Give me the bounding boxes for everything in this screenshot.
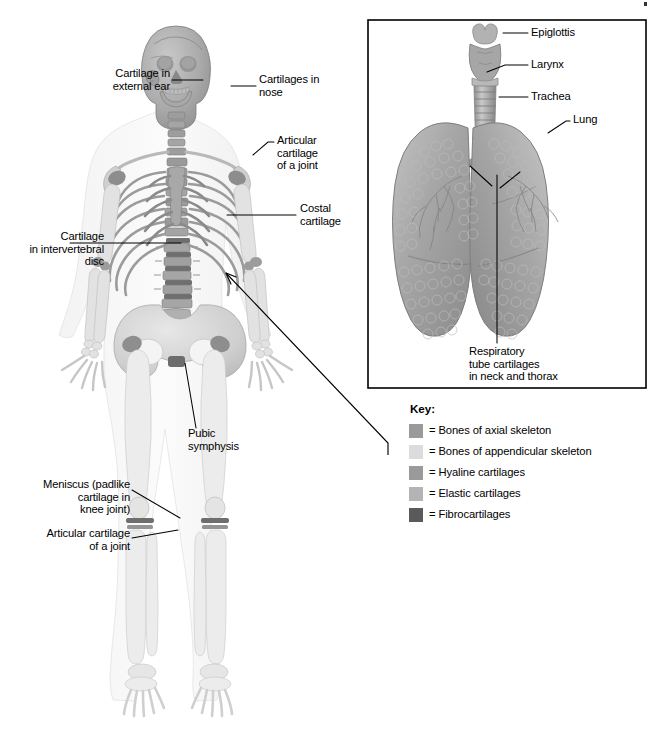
toes-right [192, 688, 232, 716]
phalanges-right [249, 356, 292, 390]
key-item-hyaline-cartilages: = Hyaline cartilages [409, 465, 644, 480]
tarsals [125, 664, 231, 691]
key-legend: Key: = Bones of axial skeleton = Bones o… [409, 402, 644, 528]
key-swatch-axial-skeleton [409, 424, 423, 438]
key-title: Key: [410, 402, 644, 415]
key-swatch-hyaline-cartilages [409, 466, 423, 480]
meniscus-right [201, 518, 229, 523]
lung-left [393, 123, 472, 336]
phalanges-left [62, 356, 105, 390]
lung-right [470, 123, 549, 336]
skeleton-figure [59, 26, 292, 716]
knee-articular-cartilage-right [202, 525, 228, 529]
fibula-left [146, 532, 158, 656]
key-swatch-elastic-cartilages [409, 487, 423, 501]
label-meniscus-knee: Meniscus (padlike cartilage in knee join… [24, 478, 130, 516]
label-cartilages-nose: Cartilages in nose [259, 73, 351, 98]
key-item-axial-skeleton: = Bones of axial skeleton [409, 423, 644, 438]
label-epiglottis: Epiglottis [531, 26, 575, 39]
key-label-fibrocartilages: = Fibrocartilages [429, 508, 510, 521]
top-mark [644, 2, 647, 6]
label-pubic-symphysis: Pubic symphysis [188, 427, 262, 452]
toes-left [124, 688, 164, 716]
inset-panel [368, 20, 646, 388]
label-cartilage-external-ear: Cartilage in external ear [80, 67, 170, 92]
key-label-elastic-cartilages: = Elastic cartilages [429, 487, 521, 500]
key-swatch-appendicular-skeleton [409, 445, 423, 459]
tibia-right [206, 530, 226, 664]
key-label-axial-skeleton: = Bones of axial skeleton [429, 424, 551, 437]
knee-articular-cartilage-left [127, 525, 153, 529]
key-item-fibrocartilages: = Fibrocartilages [409, 507, 644, 522]
fibula-right [194, 532, 206, 656]
leader-articular-cartilage-shoulder [253, 142, 274, 155]
label-lung: Lung [573, 113, 597, 126]
label-costal-cartilage: Costal cartilage [300, 202, 366, 227]
key-swatch-fibrocartilages [409, 508, 423, 522]
label-articular-cartilage-shoulder: Articular cartilage of a joint [277, 134, 355, 172]
patella-right [205, 497, 225, 519]
key-item-elastic-cartilages: = Elastic cartilages [409, 486, 644, 501]
label-trachea: Trachea [531, 90, 571, 103]
cervical-vertebrae [167, 112, 186, 155]
key-label-appendicular-skeleton: = Bones of appendicular skeleton [429, 445, 592, 458]
figure-canvas: Cartilage in external ear Cartilages in … [0, 0, 650, 742]
meniscus-left [126, 518, 154, 523]
label-articular-cartilage-knee: Articular cartilage of a joint [24, 527, 130, 552]
label-respiratory-tube-cartilages: Respiratory tube cartilages in neck and … [469, 345, 589, 383]
patella-left [129, 497, 149, 519]
label-larynx: Larynx [531, 58, 564, 71]
pubic-symphysis-cartilage [168, 356, 185, 367]
label-cartilage-intervertebral-disc: Cartilage in intervertebral disc [6, 230, 104, 268]
key-item-appendicular-skeleton: = Bones of appendicular skeleton [409, 444, 644, 459]
key-label-hyaline-cartilages: = Hyaline cartilages [429, 466, 525, 479]
